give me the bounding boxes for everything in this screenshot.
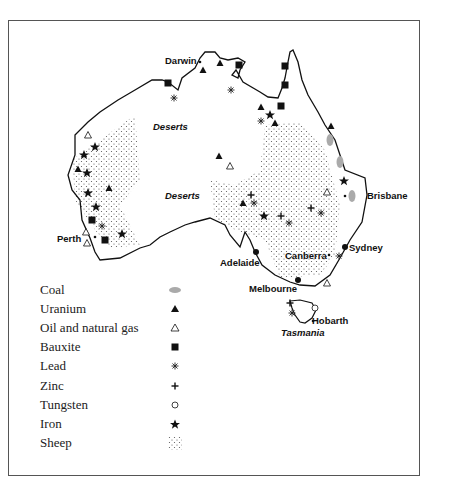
label-tasmania: Tasmania (281, 327, 324, 338)
open-circle-icon (168, 398, 182, 412)
legend-item-tungsten: Tungsten (40, 395, 200, 414)
legend-item-oil-gas: Oil and natural gas (40, 318, 200, 337)
label-deserts-center: Deserts (165, 190, 200, 201)
dotted-pattern-icon (168, 436, 182, 450)
legend-item-uranium: Uranium (40, 299, 200, 318)
label-adelaide: Adelaide (220, 257, 260, 268)
legend-item-zinc: Zinc (40, 376, 200, 395)
legend: Coal Uranium Oil and natural gas Bauxite… (40, 280, 200, 453)
legend-item-sheep: Sheep (40, 434, 200, 453)
label-sydney: Sydney (349, 242, 384, 253)
label-canberra: Canberra (285, 250, 327, 261)
open-triangle-icon (168, 321, 182, 335)
star-icon (168, 417, 182, 431)
legend-item-lead: Lead (40, 357, 200, 376)
coal-ellipse-icon (168, 283, 182, 297)
plus-icon (168, 379, 182, 393)
label-melbourne: Melbourne (249, 283, 297, 294)
filled-square-icon (168, 340, 182, 354)
tungsten-marker (312, 305, 318, 311)
legend-item-coal: Coal (40, 280, 200, 299)
legend-item-iron: Iron (40, 414, 200, 433)
filled-triangle-icon (168, 302, 182, 316)
label-darwin: Darwin (165, 55, 197, 66)
label-deserts-north: Deserts (153, 121, 188, 132)
legend-item-bauxite: Bauxite (40, 338, 200, 357)
asterisk-icon (168, 359, 182, 373)
label-perth: Perth (57, 233, 81, 244)
label-hobarth: Hobarth (312, 315, 349, 326)
label-brisbane: Brisbane (367, 190, 408, 201)
